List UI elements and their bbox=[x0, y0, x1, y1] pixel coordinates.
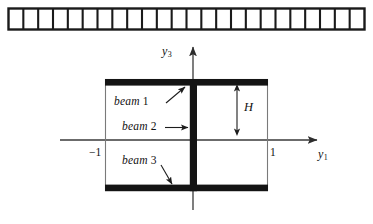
beam-2-label-text: beam bbox=[122, 120, 148, 132]
y3-axis-label: y3 bbox=[162, 45, 171, 57]
height-label: H bbox=[244, 101, 253, 114]
tick-label-minus-one: −1 bbox=[89, 147, 101, 159]
tick-label-one: 1 bbox=[270, 147, 276, 159]
bottom-flange bbox=[105, 185, 268, 192]
y3-axis-label-sub: 3 bbox=[168, 50, 172, 59]
y3-axis-label-text: y bbox=[162, 44, 167, 58]
beam-3-label-number: 3 bbox=[148, 154, 157, 166]
beam-3-label-text: beam bbox=[122, 154, 148, 166]
y1-axis-label-sub: 1 bbox=[324, 153, 328, 162]
beam-1-label: beam1 bbox=[114, 96, 149, 108]
height-dimension bbox=[234, 84, 240, 136]
beam-1-label-number: 1 bbox=[140, 95, 149, 107]
figure-canvas: y3 y1 −1 1 beam1 beam2 beam3 H bbox=[0, 0, 373, 224]
diagram-svg bbox=[0, 0, 373, 224]
y1-axis-label: y1 bbox=[318, 148, 327, 160]
web bbox=[190, 79, 197, 191]
leader-lines bbox=[161, 87, 188, 184]
top-flange bbox=[105, 79, 268, 86]
leader-beam-1 bbox=[166, 87, 185, 103]
beam-3-label: beam3 bbox=[122, 155, 157, 167]
leader-beam-3 bbox=[161, 165, 172, 184]
y1-axis-label-text: y bbox=[318, 147, 323, 161]
beam-2-label-number: 2 bbox=[148, 120, 157, 132]
beam-2-label: beam2 bbox=[122, 121, 157, 133]
beam-1-label-text: beam bbox=[114, 95, 140, 107]
element-strip bbox=[9, 9, 365, 30]
